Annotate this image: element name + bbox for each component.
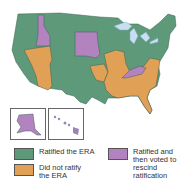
legend-rescinded: Ratified and then voted to rescind ratif… [108,148,181,180]
hawaii-inset [48,108,84,140]
legend-not-ratified: Did not ratify the ERA [14,164,87,180]
legend-label-rescinded: Ratified and then voted to rescind ratif… [133,148,181,180]
legend-swatch-ratified [14,148,34,160]
legend-label-not-ratified: Did not ratify the ERA [39,164,87,180]
legend-label-ratified: Ratified the ERA [39,148,99,156]
legend-swatch-rescinded [108,148,128,160]
hawaii-shape [49,109,83,139]
alaska-shape [11,109,45,139]
legend-ratified: Ratified the ERA [14,148,99,160]
state-south-dakota-nebraska [75,32,100,58]
alaska-inset [10,108,46,140]
legend-swatch-not-ratified [14,164,34,176]
